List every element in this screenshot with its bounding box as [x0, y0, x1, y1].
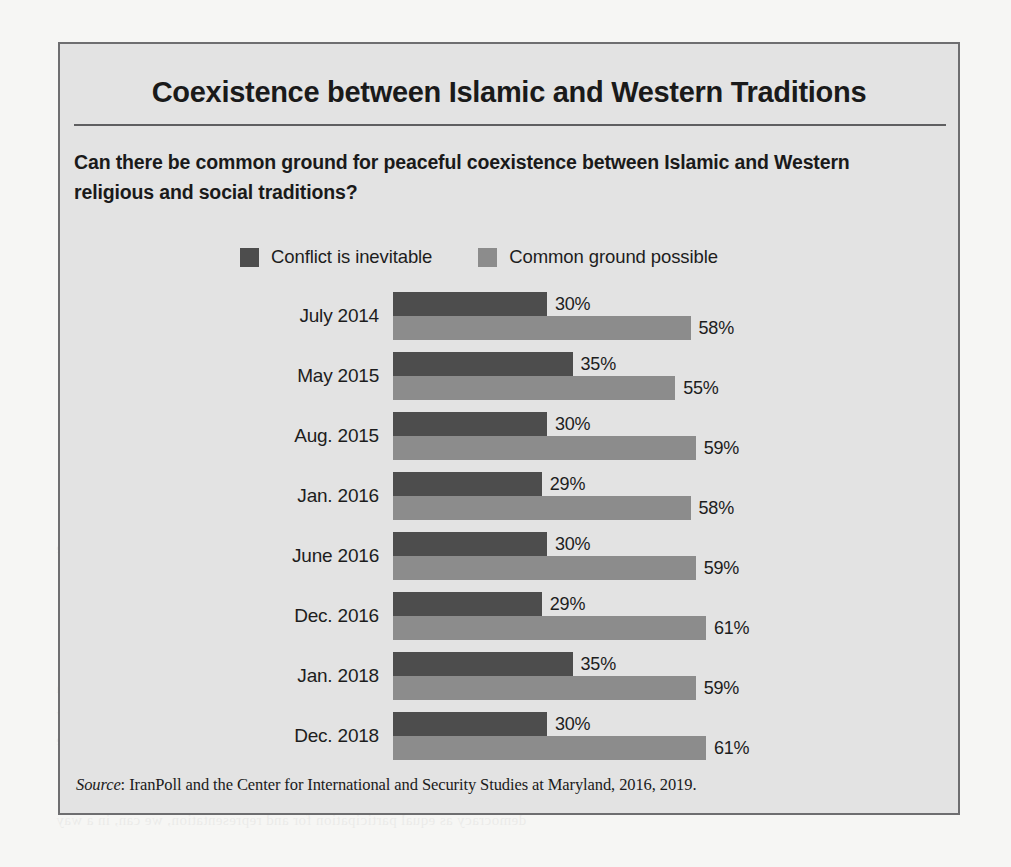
bar-track: 59%	[393, 676, 948, 700]
category-label: Dec. 2018	[74, 712, 379, 760]
bar-value-label: 59%	[704, 676, 739, 700]
chart-row: Jan. 201629%58%	[74, 472, 948, 532]
chart-row: June 201630%59%	[74, 532, 948, 592]
bar-common-ground-possible[interactable]	[393, 496, 691, 520]
bar-group: 29%61%	[393, 592, 948, 640]
bar-common-ground-possible[interactable]	[393, 376, 675, 400]
bar-group: 30%61%	[393, 712, 948, 760]
legend-swatch-icon	[240, 248, 259, 267]
bar-track: 30%	[393, 412, 948, 436]
chart-row: July 201430%58%	[74, 292, 948, 352]
bar-group: 30%59%	[393, 412, 948, 460]
figure-subtitle-question: Can there be common ground for peaceful …	[74, 148, 934, 207]
bar-group: 29%58%	[393, 472, 948, 520]
source-label: Source	[76, 775, 121, 794]
bar-track: 29%	[393, 472, 948, 496]
bar-conflict-inevitable[interactable]	[393, 652, 573, 676]
bar-value-label: 30%	[555, 292, 590, 316]
chart-legend: Conflict is inevitableCommon ground poss…	[240, 246, 718, 268]
legend-swatch-icon	[478, 248, 497, 267]
bar-conflict-inevitable[interactable]	[393, 712, 547, 736]
bar-conflict-inevitable[interactable]	[393, 532, 547, 556]
bar-track: 29%	[393, 592, 948, 616]
bar-track: 61%	[393, 616, 948, 640]
bar-track: 59%	[393, 436, 948, 460]
bar-value-label: 29%	[550, 592, 585, 616]
bar-group: 35%55%	[393, 352, 948, 400]
bar-track: 55%	[393, 376, 948, 400]
bar-track: 35%	[393, 652, 948, 676]
bar-common-ground-possible[interactable]	[393, 736, 706, 760]
category-label: May 2015	[74, 352, 379, 400]
figure-panel: Coexistence between Islamic and Western …	[58, 42, 960, 815]
bar-group: 35%59%	[393, 652, 948, 700]
bar-track: 30%	[393, 712, 948, 736]
bar-value-label: 30%	[555, 412, 590, 436]
chart-plot-area: July 201430%58%May 201535%55%Aug. 201530…	[74, 292, 948, 772]
bar-conflict-inevitable[interactable]	[393, 472, 542, 496]
bar-value-label: 55%	[683, 376, 718, 400]
chart-row: Dec. 201629%61%	[74, 592, 948, 652]
bar-common-ground-possible[interactable]	[393, 316, 691, 340]
bar-value-label: 30%	[555, 532, 590, 556]
bar-value-label: 35%	[581, 652, 616, 676]
bar-value-label: 61%	[714, 736, 749, 760]
bar-track: 30%	[393, 292, 948, 316]
chart-row: Aug. 201530%59%	[74, 412, 948, 472]
chart-row: May 201535%55%	[74, 352, 948, 412]
bar-group: 30%58%	[393, 292, 948, 340]
legend-label: Conflict is inevitable	[271, 246, 432, 268]
source-citation: IranPoll and the Center for Internationa…	[129, 775, 696, 794]
figure-title: Coexistence between Islamic and Western …	[60, 76, 958, 109]
legend-label: Common ground possible	[509, 246, 718, 268]
source-separator: :	[121, 775, 130, 794]
bar-value-label: 58%	[699, 496, 734, 520]
title-divider	[74, 124, 946, 126]
bar-conflict-inevitable[interactable]	[393, 412, 547, 436]
category-label: June 2016	[74, 532, 379, 580]
figure-source: Source: IranPoll and the Center for Inte…	[76, 775, 696, 795]
bar-value-label: 59%	[704, 556, 739, 580]
bar-track: 35%	[393, 352, 948, 376]
bar-value-label: 61%	[714, 616, 749, 640]
category-label: Aug. 2015	[74, 412, 379, 460]
bar-common-ground-possible[interactable]	[393, 616, 706, 640]
bar-value-label: 58%	[699, 316, 734, 340]
chart-row: Jan. 201835%59%	[74, 652, 948, 712]
bar-common-ground-possible[interactable]	[393, 556, 696, 580]
category-label: Jan. 2018	[74, 652, 379, 700]
category-label: Dec. 2016	[74, 592, 379, 640]
bar-value-label: 59%	[704, 436, 739, 460]
bar-conflict-inevitable[interactable]	[393, 592, 542, 616]
category-label: Jan. 2016	[74, 472, 379, 520]
chart-row: Dec. 201830%61%	[74, 712, 948, 772]
bar-common-ground-possible[interactable]	[393, 676, 696, 700]
bar-track: 58%	[393, 316, 948, 340]
bar-track: 58%	[393, 496, 948, 520]
bar-value-label: 29%	[550, 472, 585, 496]
legend-item[interactable]: Common ground possible	[478, 246, 718, 268]
legend-item[interactable]: Conflict is inevitable	[240, 246, 432, 268]
bar-group: 30%59%	[393, 532, 948, 580]
bar-track: 59%	[393, 556, 948, 580]
category-label: July 2014	[74, 292, 379, 340]
bar-value-label: 30%	[555, 712, 590, 736]
bar-track: 30%	[393, 532, 948, 556]
bar-value-label: 35%	[581, 352, 616, 376]
bar-common-ground-possible[interactable]	[393, 436, 696, 460]
bar-track: 61%	[393, 736, 948, 760]
bar-conflict-inevitable[interactable]	[393, 352, 573, 376]
bar-conflict-inevitable[interactable]	[393, 292, 547, 316]
